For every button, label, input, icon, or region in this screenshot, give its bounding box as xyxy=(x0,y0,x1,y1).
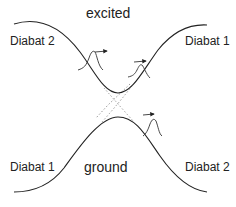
excited-state-curve xyxy=(14,22,207,93)
wavepacket-excited-incoming xyxy=(78,51,107,70)
wavepacket-excited-outgoing xyxy=(128,61,150,78)
diabat-label-lower-left: Diabat 1 xyxy=(10,161,55,173)
diabat-label-upper-left: Diabat 2 xyxy=(10,35,55,47)
excited-state-label: excited xyxy=(86,6,130,20)
diabat-label-upper-right: Diabat 1 xyxy=(185,35,230,47)
diabat-label-lower-right: Diabat 2 xyxy=(185,161,230,173)
ground-state-curve xyxy=(14,117,207,192)
wavepacket-ground-outgoing xyxy=(143,114,162,136)
potential-curves xyxy=(0,0,236,207)
diagram-canvas: excited ground Diabat 2 Diabat 1 Diabat … xyxy=(0,0,236,207)
ground-state-label: ground xyxy=(84,160,128,174)
